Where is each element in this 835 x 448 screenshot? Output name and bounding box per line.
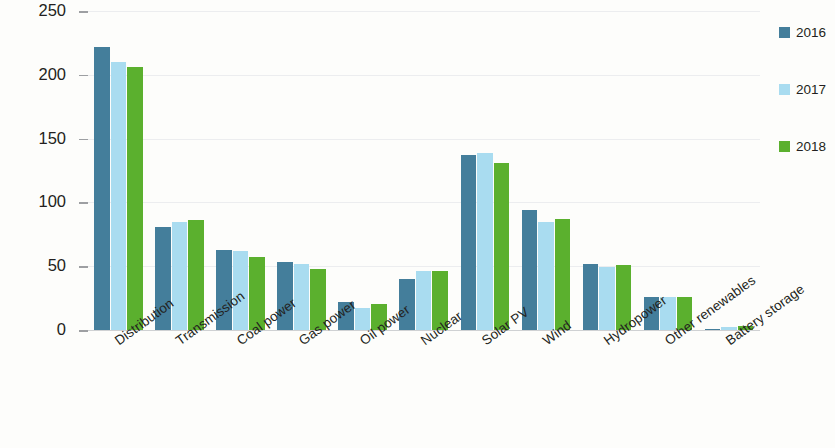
bar-2018 bbox=[127, 67, 143, 330]
y-tick-label: 50 bbox=[18, 256, 66, 275]
legend-item-2017[interactable]: 2017 bbox=[779, 81, 826, 97]
bar-group bbox=[583, 11, 632, 330]
bar-2017 bbox=[599, 267, 615, 330]
legend-swatch-icon bbox=[779, 27, 790, 38]
bar-group bbox=[277, 11, 326, 330]
bar-2017 bbox=[111, 62, 127, 330]
bar-group bbox=[338, 11, 387, 330]
bar-group bbox=[155, 11, 204, 330]
y-axis-ticks: 050100150200250 bbox=[0, 11, 88, 330]
bar-2018 bbox=[188, 220, 204, 330]
y-tick-label: 200 bbox=[18, 65, 66, 84]
legend-label: 2018 bbox=[796, 139, 826, 154]
y-tick-mark bbox=[79, 11, 88, 13]
y-tick-mark bbox=[79, 139, 88, 141]
bar-group bbox=[399, 11, 448, 330]
x-axis-labels: DistributionTransmissionCoal powerGas po… bbox=[88, 330, 760, 448]
bar-2017 bbox=[294, 264, 310, 330]
legend-swatch-icon bbox=[779, 141, 790, 152]
bar-2016 bbox=[461, 155, 477, 330]
legend-label: 2017 bbox=[796, 82, 826, 97]
bar-group bbox=[461, 11, 510, 330]
bar-2018 bbox=[555, 219, 571, 330]
bar-2016 bbox=[583, 264, 599, 330]
bar-group bbox=[644, 11, 693, 330]
bar-group bbox=[522, 11, 571, 330]
legend-item-2018[interactable]: 2018 bbox=[779, 138, 826, 154]
y-tick-label: 250 bbox=[18, 1, 66, 20]
bar-2017 bbox=[416, 271, 432, 330]
y-tick-label: 100 bbox=[18, 192, 66, 211]
bar-chart: USD (2018) billion 050100150200250 Distr… bbox=[0, 0, 835, 448]
bar-2016 bbox=[94, 47, 110, 330]
y-tick-mark bbox=[79, 202, 88, 204]
y-tick-label: 150 bbox=[18, 129, 66, 148]
y-tick-mark bbox=[79, 266, 88, 268]
legend: 201620172018 bbox=[779, 24, 835, 174]
legend-item-2016[interactable]: 2016 bbox=[779, 24, 826, 40]
bar-group bbox=[216, 11, 265, 330]
bar-group bbox=[94, 11, 143, 330]
legend-swatch-icon bbox=[779, 84, 790, 95]
plot-area bbox=[88, 11, 760, 330]
y-tick-mark bbox=[79, 330, 88, 332]
y-tick-label: 0 bbox=[18, 320, 66, 339]
bar-2017 bbox=[172, 222, 188, 330]
bar-2017 bbox=[477, 153, 493, 330]
legend-label: 2016 bbox=[796, 25, 826, 40]
bar-2018 bbox=[494, 163, 510, 330]
y-tick-mark bbox=[79, 75, 88, 77]
bar-2017 bbox=[538, 222, 554, 330]
